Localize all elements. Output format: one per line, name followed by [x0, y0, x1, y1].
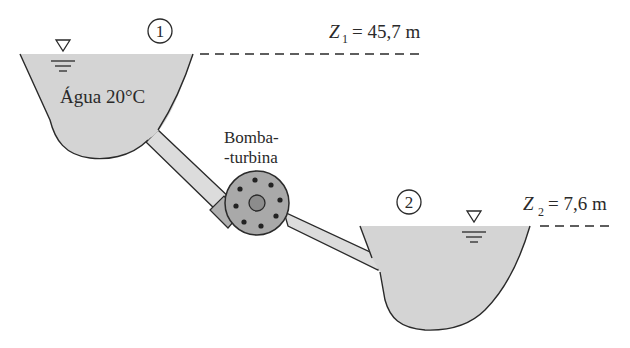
- svg-text:= 7,6 m: = 7,6 m: [548, 193, 607, 214]
- elevation-label-1: Z 1 = 45,7 m: [329, 21, 420, 46]
- machine-label-line2: -turbina: [224, 148, 278, 167]
- pump-hub: [249, 195, 265, 211]
- svg-text:= 45,7 m: = 45,7 m: [352, 21, 420, 42]
- reservoir-2: [360, 226, 530, 330]
- svg-text:1: 1: [342, 32, 348, 46]
- upper-pipe: [146, 130, 232, 212]
- svg-text:Z: Z: [329, 21, 340, 42]
- machine-label-line1: Bomba-: [224, 128, 279, 147]
- point-2-label: 2: [405, 193, 414, 212]
- pump-turbine-diagram: 1 2 Água 20°C Bomba- -turbina Z 1 = 45,7…: [0, 0, 630, 348]
- fluid-label: Água 20°C: [60, 86, 145, 107]
- svg-text:2: 2: [538, 205, 544, 219]
- point-1-label: 1: [156, 22, 165, 41]
- elevation-label-2: Z 2 = 7,6 m: [523, 193, 607, 219]
- svg-text:Z: Z: [523, 193, 534, 214]
